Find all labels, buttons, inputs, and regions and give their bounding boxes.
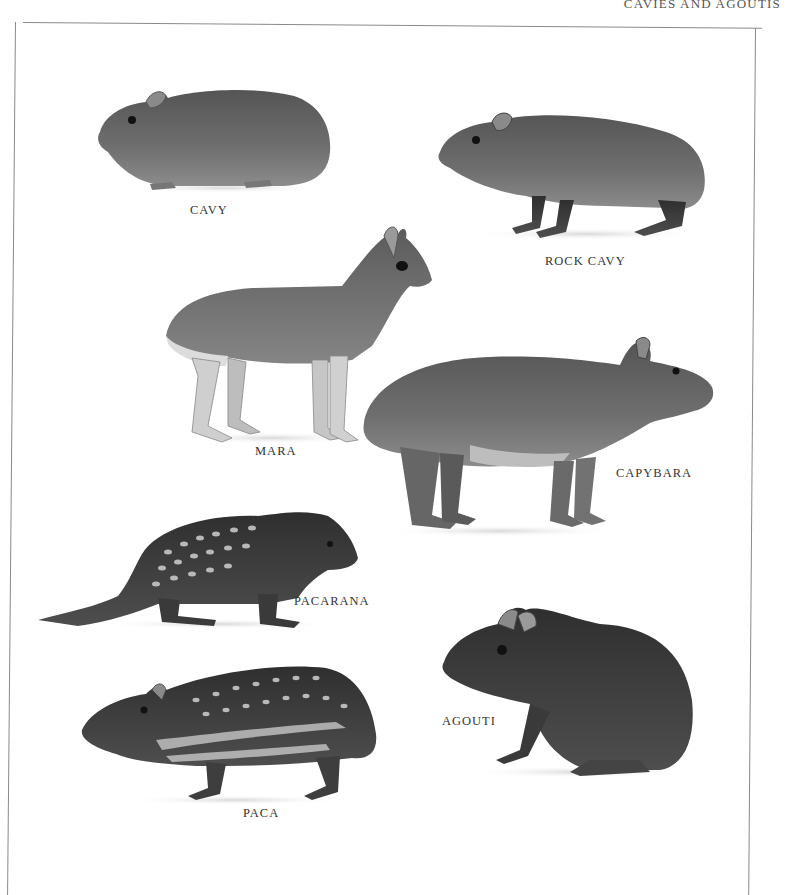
pacarana-illustration <box>38 508 360 633</box>
mara-label: MARA <box>255 444 297 459</box>
plate-frame-left <box>7 22 16 895</box>
cavy-label: CAVY <box>190 203 228 218</box>
cavy-illustration <box>94 86 334 196</box>
paca-label: PACA <box>243 806 279 821</box>
capybara-illustration <box>360 335 720 540</box>
capybara-label: CAPYBARA <box>616 466 692 481</box>
running-head: CAVIES AND AGOUTIS <box>624 0 781 12</box>
rock-cavy-illustration <box>436 110 711 245</box>
agouti-label: AGOUTI <box>442 714 496 729</box>
plate-frame-top <box>23 22 762 29</box>
pacarana-label: PACARANA <box>294 594 370 609</box>
agouti-illustration <box>440 600 698 780</box>
plate-frame-right <box>748 28 756 895</box>
paca-illustration <box>76 662 381 807</box>
rock-cavy-label: ROCK CAVY <box>545 254 626 269</box>
